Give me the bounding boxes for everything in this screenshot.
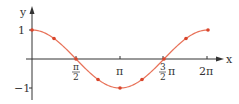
data-point-marker [96, 78, 100, 82]
svg-text:π: π [168, 65, 175, 78]
x-axis-label: x [226, 53, 233, 66]
svg-text:π: π [73, 62, 79, 72]
x-axis-arrow-icon [216, 57, 224, 62]
data-point-marker [30, 28, 34, 32]
axes [26, 6, 224, 100]
svg-text:2: 2 [160, 72, 166, 82]
y-axis-label: y [19, 6, 27, 19]
data-point-marker [140, 78, 144, 82]
x-tick-label-pi: π [116, 65, 123, 78]
data-point-marker [162, 57, 166, 61]
x-tick-label-two-pi: 2π [199, 65, 213, 78]
data-point-marker [74, 57, 78, 61]
data-point-marker [184, 37, 188, 41]
y-tick-label-minus-1: −1 [14, 82, 30, 95]
data-point-marker [52, 37, 56, 41]
y-axis-arrow-icon [30, 6, 35, 14]
y-tick-label-1: 1 [18, 24, 25, 37]
x-tick-label-three-half-pi: 3 2 π [159, 62, 175, 82]
cosine-chart: x y 1 −1 π 2 π 3 2 π 2π [0, 0, 239, 104]
svg-text:3: 3 [160, 62, 166, 72]
svg-text:2: 2 [73, 72, 79, 82]
data-point-marker [206, 28, 210, 32]
data-point-marker [118, 86, 122, 90]
x-tick-label-pi-half: π 2 [72, 62, 80, 82]
